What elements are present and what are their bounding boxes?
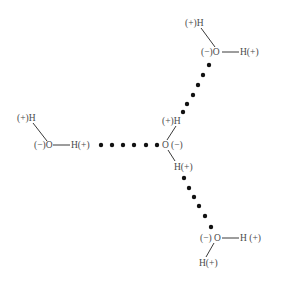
center-water-label-o: O	[162, 140, 169, 150]
covalent-bond-line	[168, 150, 175, 161]
hydrogen-bond-dot	[99, 143, 103, 147]
center-water-label-h2: H(+)	[174, 162, 193, 172]
bottom-right-water-label-charge: (−)	[200, 233, 212, 243]
covalent-bond-line	[167, 126, 176, 140]
covalent-bond-line	[206, 243, 214, 257]
left-water-label-o: (−)O	[34, 140, 53, 150]
bottom-right-water-label-h1: H (+)	[240, 233, 261, 243]
hydrogen-bond-dot	[196, 83, 200, 87]
hydrogen-bond-dot	[209, 225, 213, 229]
hydrogen-bond-dot	[155, 143, 159, 147]
hydrogen-bond-dot	[132, 143, 136, 147]
covalent-bond-line	[201, 28, 215, 47]
hydrogen-bond-dot	[192, 195, 196, 199]
bottom-right-water-label-h2: H(+)	[199, 258, 218, 268]
left-water-label-h1: (+)H	[17, 113, 36, 123]
hydrogen-bond-dot	[181, 110, 185, 114]
top-right-water-label-h2: H(+)	[240, 47, 259, 57]
hbond-center-to-top-right	[181, 63, 211, 114]
covalent-bond-line	[33, 123, 47, 141]
hbond-left-to-center	[99, 143, 159, 147]
hbond-center-to-bottom-right	[182, 176, 213, 229]
hydrogen-bond-dot	[207, 63, 211, 67]
hydrogen-bond-dot	[187, 186, 191, 190]
hydrogen-bond-dot	[201, 73, 205, 77]
hydrogen-bond-dot	[110, 143, 114, 147]
center-water-label-h1: (+)H	[162, 116, 181, 126]
top-right-water-label-o: (−)O	[201, 47, 220, 57]
bottom-right-water-label-o: O	[214, 233, 221, 243]
center-water-label-charge: (−)	[171, 140, 183, 150]
water-hydrogen-bond-diagram: (+)H(−)OH(+)(+)H(−)OH(+)(+)HO(−)H(+)(−)O…	[0, 0, 282, 286]
left-water-label-h2: H(+)	[71, 140, 90, 150]
hydrogen-bond-dot	[197, 204, 201, 208]
hydrogen-bond-dot	[182, 176, 186, 180]
hydrogen-bond-dot	[191, 93, 195, 97]
hydrogen-bond-dot	[121, 143, 125, 147]
hydrogen-bond-dot	[144, 143, 148, 147]
hydrogen-bond-dot	[185, 102, 189, 106]
hydrogen-bond-dot	[203, 214, 207, 218]
top-right-water-label-h1: (+)H	[185, 18, 204, 28]
